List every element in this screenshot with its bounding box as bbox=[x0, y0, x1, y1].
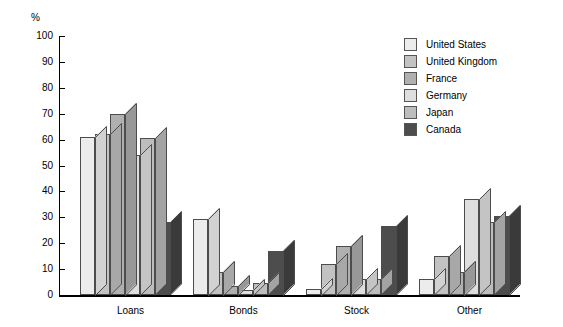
legend-swatch-icon bbox=[404, 123, 417, 136]
bar-bonds-united-states bbox=[193, 219, 208, 295]
bar-side-face bbox=[170, 211, 181, 295]
bar-loans-france bbox=[110, 114, 125, 295]
bar-side-outline bbox=[140, 144, 153, 297]
bar-front-face bbox=[494, 216, 509, 295]
legend-item-canada[interactable]: Canada bbox=[404, 121, 497, 138]
bar-front-face bbox=[253, 283, 268, 295]
bar-side-face bbox=[479, 188, 490, 295]
bar-side-face bbox=[238, 275, 249, 295]
legend-swatch-icon bbox=[404, 38, 417, 51]
bar-side-face bbox=[321, 278, 332, 295]
bar-loans-canada bbox=[155, 222, 170, 295]
bar-side-outline bbox=[155, 127, 168, 297]
bar-stock-japan bbox=[366, 279, 381, 295]
legend-item-france[interactable]: France bbox=[404, 70, 497, 87]
y-axis-tick-mark bbox=[60, 114, 65, 115]
y-axis-tick-mark bbox=[60, 62, 65, 63]
legend-swatch-icon bbox=[404, 72, 417, 85]
legend-label: Germany bbox=[426, 90, 467, 101]
bar-side-face bbox=[434, 268, 445, 295]
chart-figure: % 1009080706050403020100 LoansBondsStock… bbox=[0, 0, 563, 327]
bar-side-outline bbox=[223, 261, 236, 297]
legend-label: France bbox=[426, 73, 457, 84]
bar-side-outline bbox=[283, 240, 296, 297]
bar-bonds-france bbox=[223, 286, 238, 295]
legend-label: United States bbox=[426, 39, 486, 50]
y-axis-tick-label: 20 bbox=[13, 238, 53, 248]
bar-side-face bbox=[449, 245, 460, 295]
bar-side-outline bbox=[170, 211, 183, 297]
bar-front-face bbox=[306, 289, 321, 295]
bar-side-outline bbox=[449, 245, 462, 297]
bar-side-face bbox=[223, 261, 234, 295]
y-axis-tick-mark bbox=[60, 217, 65, 218]
bar-loans-japan bbox=[140, 138, 155, 295]
y-axis-tick-label: 100 bbox=[13, 31, 53, 41]
y-axis-tick-label: 40 bbox=[13, 186, 53, 196]
bar-front-face bbox=[268, 251, 283, 295]
bar-front-face bbox=[351, 279, 366, 295]
bar-other-united-states bbox=[419, 279, 434, 295]
bar-stock-france bbox=[336, 246, 351, 295]
legend-swatch-icon bbox=[404, 55, 417, 68]
bar-front-face bbox=[419, 279, 434, 295]
bar-front-face bbox=[140, 138, 155, 295]
bar-stock-united-states bbox=[306, 289, 321, 295]
bar-other-canada bbox=[494, 216, 509, 295]
legend-item-united-kingdom[interactable]: United Kingdom bbox=[404, 53, 497, 70]
bar-front-face bbox=[464, 199, 479, 295]
bar-front-face bbox=[223, 286, 238, 295]
bar-side-face bbox=[125, 103, 136, 295]
bar-side-face bbox=[336, 253, 347, 295]
bar-front-face bbox=[449, 272, 464, 295]
y-axis-tick-label: 80 bbox=[13, 83, 53, 93]
bar-side-face bbox=[381, 268, 392, 295]
bar-side-face bbox=[95, 126, 106, 295]
legend-item-united-states[interactable]: United States bbox=[404, 36, 497, 53]
bar-side-outline bbox=[268, 272, 281, 297]
bar-front-face bbox=[95, 134, 110, 295]
bar-stock-canada bbox=[381, 226, 396, 295]
bar-stock-germany bbox=[351, 279, 366, 295]
bar-bonds-japan bbox=[253, 283, 268, 295]
bar-other-germany bbox=[464, 199, 479, 295]
bar-side-outline bbox=[208, 208, 221, 297]
y-axis-tick-mark bbox=[60, 191, 65, 192]
bar-other-france bbox=[449, 272, 464, 295]
bar-side-outline bbox=[494, 211, 507, 297]
bar-side-face bbox=[140, 144, 151, 295]
bar-side-outline bbox=[464, 261, 477, 297]
legend-item-germany[interactable]: Germany bbox=[404, 87, 497, 104]
y-axis-tick-mark bbox=[60, 36, 65, 37]
legend-item-japan[interactable]: Japan bbox=[404, 104, 497, 121]
bar-side-outline bbox=[351, 235, 364, 297]
bar-side-outline bbox=[366, 268, 379, 297]
x-axis-label-bonds: Bonds bbox=[194, 305, 294, 316]
bar-side-outline bbox=[509, 205, 522, 297]
bar-side-outline bbox=[381, 268, 394, 297]
bar-side-outline bbox=[434, 268, 447, 297]
y-axis-tick-mark bbox=[60, 88, 65, 89]
y-axis-tick-mark bbox=[60, 295, 65, 296]
bar-front-face bbox=[381, 226, 396, 295]
bar-other-japan bbox=[479, 222, 494, 295]
bar-front-face bbox=[110, 114, 125, 295]
legend-label: United Kingdom bbox=[426, 56, 497, 67]
y-axis-tick-label: 50 bbox=[13, 161, 53, 171]
bar-front-face bbox=[479, 222, 494, 295]
bar-front-face bbox=[80, 137, 95, 295]
y-axis-tick-label: 70 bbox=[13, 109, 53, 119]
x-axis-label-other: Other bbox=[420, 305, 520, 316]
bar-side-outline bbox=[396, 215, 409, 297]
bar-front-face bbox=[366, 279, 381, 295]
bar-front-face bbox=[208, 272, 223, 295]
y-axis-tick-label: 10 bbox=[13, 264, 53, 274]
bar-loans-germany bbox=[125, 155, 140, 295]
x-axis-label-stock: Stock bbox=[307, 305, 407, 316]
bar-bonds-united-kingdom bbox=[208, 272, 223, 295]
bar-side-face bbox=[464, 261, 475, 295]
bar-front-face bbox=[434, 256, 449, 295]
bar-front-face bbox=[321, 264, 336, 295]
legend-label: Canada bbox=[426, 124, 461, 135]
bar-side-face bbox=[509, 205, 520, 295]
